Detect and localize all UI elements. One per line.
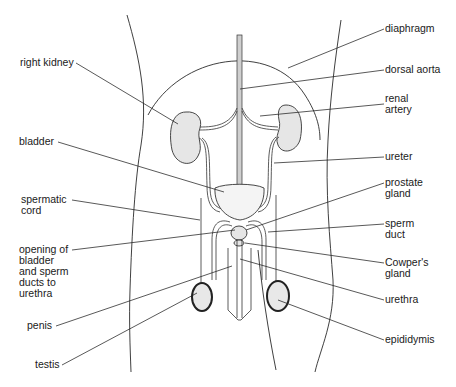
left-kidney-shape [277, 105, 302, 151]
label-renal-artery: renal artery [385, 93, 412, 115]
sperm-duct-right-shape [212, 221, 230, 280]
label-spermatic-cord: spermatic cord [21, 194, 67, 216]
label-penis: penis [27, 320, 52, 331]
right-testis-shape [192, 283, 212, 311]
penis-shape [228, 248, 251, 320]
label-dorsal-aorta: dorsal aorta [385, 64, 440, 75]
label-cowpers-gland: Cowper's gland [385, 257, 428, 279]
renal-artery-left-shape [200, 108, 237, 127]
label-right-kidney: right kidney [20, 57, 74, 68]
renal-artery-right-shape [242, 108, 278, 127]
label-sperm-duct: sperm duct [385, 218, 414, 240]
renal-artery-right-shape-2 [242, 111, 278, 130]
label-epididymis: epididymis [385, 334, 435, 345]
label-urethra: urethra [385, 294, 418, 305]
prostate-shape [231, 226, 247, 240]
label-diaphragm: diaphragm [385, 23, 435, 34]
label-opening: opening of bladder and sperm ducts to ur… [19, 244, 69, 299]
label-prostate-gland: prostate gland [385, 177, 423, 199]
cowpers-gland-shape [234, 240, 244, 246]
bladder-shape [215, 184, 264, 220]
label-testis: testis [35, 359, 60, 370]
right-kidney-shape [171, 112, 201, 163]
left-testis-shape [267, 281, 289, 311]
dorsal-aorta-shape [237, 35, 242, 195]
label-bladder: bladder [19, 136, 54, 147]
label-ureter: ureter [385, 151, 412, 162]
urethra-shape [237, 240, 242, 318]
